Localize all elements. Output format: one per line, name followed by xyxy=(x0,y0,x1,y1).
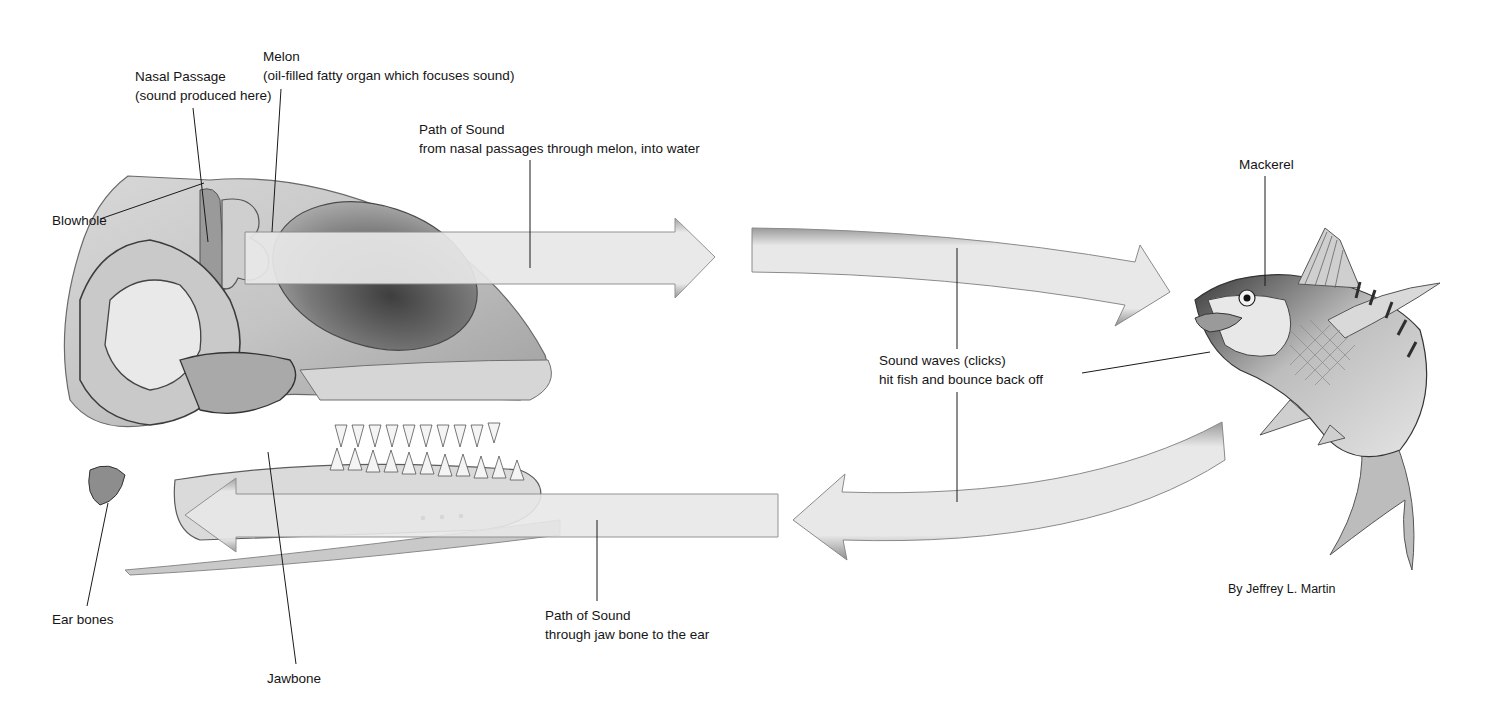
outgoing-clicks-arrow xyxy=(752,228,1170,326)
label-sound-waves-detail: hit fish and bounce back off xyxy=(879,370,1043,389)
mackerel-illustration xyxy=(1195,228,1440,570)
label-blowhole-title: Blowhole xyxy=(52,211,107,230)
label-nasal-passage: Nasal Passage (sound produced here) xyxy=(135,67,272,105)
illustrator-credit: By Jeffrey L. Martin xyxy=(1228,580,1335,599)
credit-text: By Jeffrey L. Martin xyxy=(1228,580,1335,599)
label-path-of-sound-in: Path of Sound through jaw bone to the ea… xyxy=(545,606,709,644)
label-path-of-sound-out: Path of Sound from nasal passages throug… xyxy=(419,120,700,158)
label-path-out-detail: from nasal passages through melon, into … xyxy=(419,139,700,158)
label-melon-title: Melon xyxy=(263,47,514,66)
returning-echo-arrow xyxy=(793,422,1225,560)
label-melon-detail: (oil-filled fatty organ which focuses so… xyxy=(263,66,514,85)
label-sound-waves: Sound waves (clicks) hit fish and bounce… xyxy=(879,351,1043,389)
echolocation-diagram: Nasal Passage (sound produced here) Melo… xyxy=(0,0,1489,711)
label-sound-waves-title: Sound waves (clicks) xyxy=(879,351,1043,370)
label-mackerel-title: Mackerel xyxy=(1239,155,1294,174)
label-blowhole: Blowhole xyxy=(52,211,107,230)
label-path-out-title: Path of Sound xyxy=(419,120,700,139)
label-ear-bones-title: Ear bones xyxy=(52,610,114,629)
illustration xyxy=(0,0,1489,711)
label-path-in-title: Path of Sound xyxy=(545,606,709,625)
label-melon: Melon (oil-filled fatty organ which focu… xyxy=(263,47,514,85)
label-nasal-passage-title: Nasal Passage xyxy=(135,67,272,86)
label-jawbone: Jawbone xyxy=(267,669,321,688)
label-mackerel: Mackerel xyxy=(1239,155,1294,174)
label-jawbone-title: Jawbone xyxy=(267,669,321,688)
label-ear-bones: Ear bones xyxy=(52,610,114,629)
label-path-in-detail: through jaw bone to the ear xyxy=(545,625,709,644)
label-nasal-passage-detail: (sound produced here) xyxy=(135,86,272,105)
